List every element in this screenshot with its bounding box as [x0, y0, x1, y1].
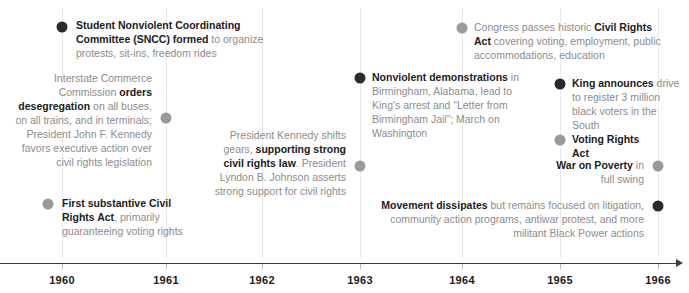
event-text-kennedy-shifts-gears: President Kennedy shifts gears, supporti…	[208, 128, 346, 198]
axis-tick-1964	[462, 264, 463, 269]
axis-tick-1962	[262, 264, 263, 269]
event-dot-voting-rights-act[interactable]	[555, 135, 566, 146]
year-label-1961: 1961	[153, 274, 179, 286]
event-lead-pre-congress: Congress passes historic	[474, 21, 594, 33]
gridline-1963	[360, 8, 361, 258]
event-lead-war-on-poverty: War on Poverty	[556, 159, 633, 171]
event-dot-war-on-poverty[interactable]	[653, 161, 664, 172]
event-dot-movement-dissipates[interactable]	[653, 201, 664, 212]
year-label-1965: 1965	[547, 274, 573, 286]
year-label-1964: 1964	[449, 274, 475, 286]
event-text-movement-dissipates: Movement dissipates but remains focused …	[380, 198, 644, 240]
timeline-axis	[0, 263, 676, 264]
axis-tick-1961	[166, 264, 167, 269]
event-dot-congress-civil-rights-act[interactable]	[457, 23, 468, 34]
event-dot-king-announces[interactable]	[555, 79, 566, 90]
civil-rights-timeline: 1960 1961 1962 1963 1964 1965 1966 Stude…	[0, 0, 689, 293]
year-label-1960: 1960	[49, 274, 75, 286]
event-text-sncc-formed: Student Nonviolent Coordinating Committe…	[76, 18, 294, 60]
event-dot-kennedy-shifts-gears[interactable]	[355, 161, 366, 172]
event-dot-first-civil-rights-act[interactable]	[43, 199, 54, 210]
year-label-1966: 1966	[645, 274, 671, 286]
event-text-voting-rights-act: Voting Rights Act	[572, 132, 652, 160]
event-lead-king: King announces	[572, 77, 654, 89]
axis-tick-1965	[560, 264, 561, 269]
event-dot-icc-desegregation[interactable]	[161, 113, 172, 124]
year-label-1963: 1963	[347, 274, 373, 286]
event-text-war-on-poverty: War on Poverty in full swing	[546, 158, 644, 186]
event-lead-nonviolent: Nonviolent demonstrations	[372, 71, 508, 83]
event-dot-sncc-formed[interactable]	[57, 22, 68, 33]
axis-tick-1960	[62, 264, 63, 269]
event-text-first-civil-rights-act: First substantive Civil Rights Act, prim…	[62, 196, 192, 238]
event-text-nonviolent-demonstrations: Nonviolent demonstrations in Birmingham,…	[372, 70, 532, 140]
event-text-icc-desegregation: Interstate Commerce Commission orders de…	[14, 71, 152, 169]
axis-arrow-icon	[676, 259, 683, 267]
axis-tick-1963	[360, 264, 361, 269]
event-rest-congress: covering voting, employment, public acco…	[474, 35, 661, 61]
event-lead-movement-dissipates: Movement dissipates	[381, 199, 487, 211]
event-dot-nonviolent-demonstrations[interactable]	[355, 73, 366, 84]
year-label-1962: 1962	[249, 274, 275, 286]
event-lead-voting-rights-act: Voting Rights Act	[572, 133, 639, 159]
event-text-congress-civil-rights-act: Congress passes historic Civil Rights Ac…	[474, 20, 670, 62]
axis-tick-1966	[658, 264, 659, 269]
event-text-king-announces: King announces drive to register 3 milli…	[572, 76, 682, 132]
